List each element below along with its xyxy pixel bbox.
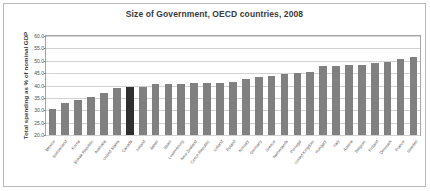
bar[interactable] — [345, 65, 353, 135]
x-axis-label-slot: Belgium — [356, 137, 369, 189]
plot-area: 60.055.050.045.040.035.030.025.020.0 — [45, 35, 421, 136]
x-axis-label-slot: Iceland — [214, 137, 227, 189]
x-axis-label-slot: Finland — [369, 137, 382, 189]
bar-slot — [394, 36, 407, 135]
x-axis-label-slot: Spain — [162, 137, 175, 189]
bar[interactable] — [384, 62, 392, 135]
x-axis-label: Austria — [342, 139, 354, 152]
bar[interactable] — [126, 87, 134, 135]
x-axis-label-slot: Hungary — [317, 137, 330, 189]
gridline — [46, 135, 420, 136]
x-axis-label-slot: Japan — [149, 137, 162, 189]
bar[interactable] — [397, 59, 405, 135]
x-axis-label-slot: Germany — [253, 137, 266, 189]
bar[interactable] — [177, 84, 185, 135]
bar[interactable] — [281, 74, 289, 135]
x-axis-label: Poland — [225, 139, 237, 152]
bar-slot — [46, 36, 59, 135]
x-axis-labels: MexicoSwitzerlandKoreaSlovak RepublicAus… — [45, 137, 421, 189]
x-axis-label-slot: Luxembourg — [175, 137, 188, 189]
x-axis-label: Greece — [264, 139, 276, 153]
x-axis-label: Italy — [332, 139, 341, 148]
x-axis-label-slot: Australia — [97, 137, 110, 189]
bar-slot — [304, 36, 317, 135]
bar[interactable] — [319, 66, 327, 135]
bar[interactable] — [294, 73, 302, 135]
x-axis-label: Canada — [120, 139, 133, 153]
x-axis-label-slot: Austria — [343, 137, 356, 189]
x-axis-label-slot: Norway — [240, 137, 253, 189]
bar[interactable] — [139, 87, 147, 136]
bar[interactable] — [255, 77, 263, 135]
bar-slot — [355, 36, 368, 135]
x-axis-label-slot: Denmark — [382, 137, 395, 189]
x-axis-label: Iceland — [212, 139, 224, 152]
bar[interactable] — [242, 79, 250, 135]
bar-slot — [317, 36, 330, 135]
bar-slot — [368, 36, 381, 135]
y-axis-tick-label: 40.0 — [34, 83, 44, 89]
bar-slot — [239, 36, 252, 135]
bar[interactable] — [61, 103, 69, 135]
bar[interactable] — [216, 83, 224, 135]
x-axis-label: Japan — [148, 139, 159, 151]
bar[interactable] — [74, 100, 82, 135]
x-axis-label-slot: Switzerland — [58, 137, 71, 189]
y-axis-tick-mark — [44, 135, 46, 136]
bar-series — [46, 36, 420, 135]
bar-slot — [278, 36, 291, 135]
bar-slot — [265, 36, 278, 135]
bar-slot — [136, 36, 149, 135]
y-axis-tick-label: 25.0 — [34, 120, 44, 126]
bar[interactable] — [87, 97, 95, 135]
bar[interactable] — [190, 83, 198, 135]
bar-slot — [342, 36, 355, 135]
y-axis-tick-label: 35.0 — [34, 95, 44, 101]
bar-slot — [381, 36, 394, 135]
bar-slot — [252, 36, 265, 135]
x-axis-label: Ireland — [135, 139, 147, 152]
bar[interactable] — [113, 88, 121, 135]
x-axis-label-slot: Sweden — [408, 137, 421, 189]
x-axis-label-slot: Greece — [265, 137, 278, 189]
y-axis-title: Total spending as % of nominal GDP — [22, 28, 29, 144]
bar-slot — [214, 36, 227, 135]
bar[interactable] — [229, 82, 237, 135]
bar-slot — [110, 36, 123, 135]
x-axis-label: Sweden — [405, 139, 418, 154]
x-axis-label: Belgium — [354, 139, 367, 154]
y-axis-tick-label: 30.0 — [34, 107, 44, 113]
bar[interactable] — [152, 84, 160, 135]
x-axis-label-slot: Italy — [330, 137, 343, 189]
x-axis-label-slot: Mexico — [45, 137, 58, 189]
bar-slot — [72, 36, 85, 135]
bar-slot — [175, 36, 188, 135]
bar-slot — [201, 36, 214, 135]
chart-container: Size of Government, OECD countries, 2008… — [3, 3, 426, 187]
x-axis-label-slot: Canada — [123, 137, 136, 189]
y-axis-tick-label: 20.0 — [34, 132, 44, 138]
bar[interactable] — [358, 65, 366, 135]
y-axis-tick-label: 60.0 — [34, 33, 44, 39]
bar[interactable] — [410, 57, 418, 135]
bar-slot — [85, 36, 98, 135]
bar[interactable] — [306, 72, 314, 135]
bar[interactable] — [332, 66, 340, 135]
bar[interactable] — [165, 84, 173, 135]
x-axis-label-slot: United States — [110, 137, 123, 189]
chart-title: Size of Government, OECD countries, 2008 — [4, 9, 425, 19]
bar[interactable] — [49, 109, 57, 135]
bar[interactable] — [371, 63, 379, 135]
bar-slot — [123, 36, 136, 135]
x-axis-label-slot: Ireland — [136, 137, 149, 189]
x-axis-label: Spain — [162, 139, 172, 150]
x-axis-label: Korea — [71, 139, 82, 151]
bar[interactable] — [100, 93, 108, 135]
x-axis-label-slot: France — [395, 137, 408, 189]
x-axis-label-slot: Czech Republic — [201, 137, 214, 189]
bar[interactable] — [203, 83, 211, 135]
y-axis-tick-label: 55.0 — [34, 45, 44, 51]
bar-slot — [188, 36, 201, 135]
bar-slot — [226, 36, 239, 135]
bar[interactable] — [268, 76, 276, 135]
